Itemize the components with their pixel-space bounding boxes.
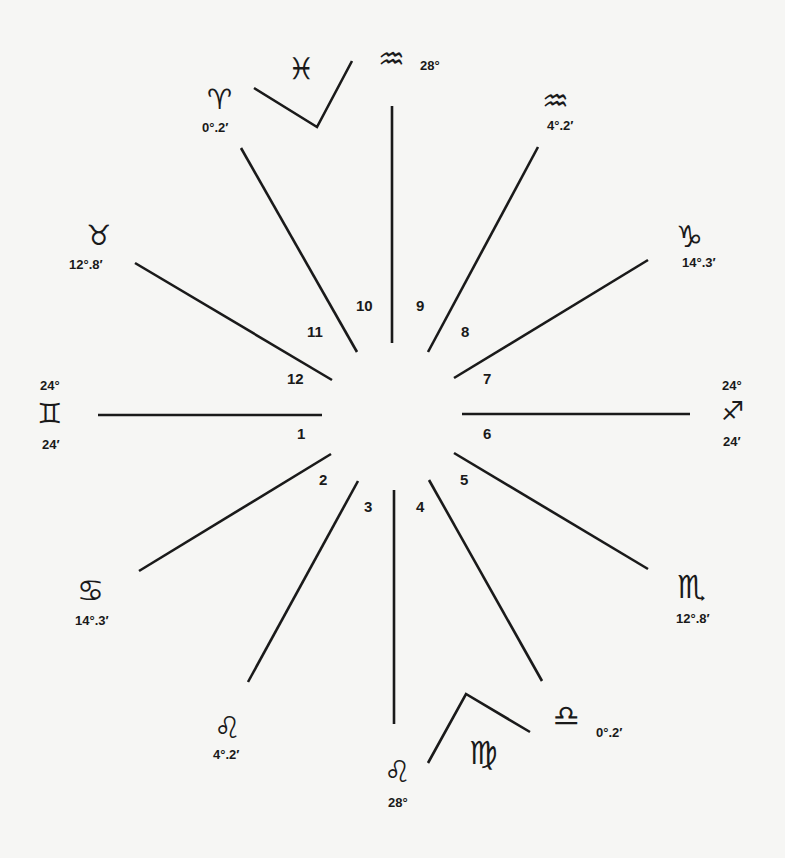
leo-icon: ♌ [214,713,241,743]
cusp-line-9 [428,147,538,352]
cusp-degree-capricorn: 14°.3′ [682,255,716,270]
cusp-degree-gemini-top: 24° [40,378,60,393]
leo-icon: ♌ [384,757,411,787]
aries-icon: ♈ [207,86,232,114]
gemini-icon: ♊ [37,400,62,428]
house-chart-diagram: 1 2 3 4 5 6 7 8 9 10 11 12 ♒ 28° ♒ 4°.2′… [0,0,785,858]
cusp-lines [0,0,785,858]
cusp-line-8 [454,260,648,378]
house-number-8: 8 [461,323,469,340]
house-number-7: 7 [483,370,491,387]
scorpio-icon: ♏ [677,571,706,603]
taurus-icon: ♉ [86,222,111,250]
cusp-degree-aries: 0°.2′ [202,120,228,135]
cancer-icon: ♋ [77,576,104,606]
pisces-icon: ♓ [288,54,315,84]
cusp-degree-sagittarius-top: 24° [722,378,742,393]
cusp-line-11 [241,148,357,352]
cusp-line-2 [139,454,331,571]
house-number-12: 12 [287,370,304,387]
cusp-degree-taurus: 12°.8′ [69,257,103,272]
cusp-degree-sagittarius-bottom: 24′ [723,434,741,449]
sagittarius-icon: ♐ [721,398,744,424]
cusp-degree-leo-4: 4°.2′ [213,747,239,762]
house-number-6: 6 [483,425,491,442]
cusp-line-12 [135,263,332,380]
house-number-4: 4 [416,498,424,515]
aquarius-icon: ♒ [542,86,569,116]
house-number-1: 1 [297,425,305,442]
capricorn-icon: ♑ [676,222,703,252]
cusp-line-6 [454,453,648,569]
cusp-degree-gemini-bottom: 24′ [42,437,60,452]
cusp-degree-cancer: 14°.3′ [75,613,109,628]
house-number-10: 10 [356,297,373,314]
aquarius-icon: ♒ [378,44,405,74]
cusp-degree-scorpio: 12°.8′ [676,611,710,626]
virgo-icon: ♍ [469,737,498,769]
house-number-5: 5 [460,471,468,488]
house-number-9: 9 [416,297,424,314]
house-number-11: 11 [307,323,323,340]
cusp-line-3 [248,481,358,682]
cusp-line-5 [429,480,542,681]
cusp-degree-libra: 0°.2′ [596,725,622,740]
cusp-degree-aquarius-4: 4°.2′ [547,118,573,133]
cusp-degree-leo-28: 28° [388,795,408,810]
house-number-3: 3 [364,498,372,515]
cusp-degree-aquarius-28: 28° [420,58,440,73]
house-number-2: 2 [319,471,327,488]
libra-icon: ♎ [553,701,580,731]
